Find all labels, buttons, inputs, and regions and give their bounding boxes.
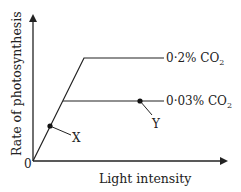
photosynthesis-chart: 0 Light intensity Rate of photosynthesis… <box>0 0 241 192</box>
point-y-leader <box>140 101 152 115</box>
y-axis-label: Rate of photosynthesis <box>9 11 24 156</box>
point-x-label: X <box>72 131 81 145</box>
origin-label: 0 <box>24 157 32 171</box>
x-axis-label: Light intensity <box>99 171 192 186</box>
curve-high-co2 <box>33 58 164 161</box>
point-y-label: Y <box>151 117 161 131</box>
point-x-leader <box>50 126 71 135</box>
series-high-label: 0·2% CO2 <box>166 51 224 67</box>
series-low-label: 0·03% CO2 <box>166 94 232 110</box>
